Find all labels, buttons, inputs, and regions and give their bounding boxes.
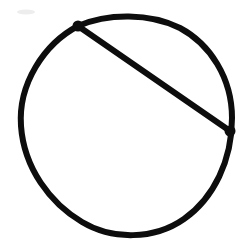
circle-with-chord-drawing: Circle with a chord bbox=[0, 0, 242, 252]
paper-smudge bbox=[17, 10, 35, 15]
figure-canvas: Circle with a chord bbox=[0, 0, 242, 252]
drawing-background bbox=[0, 0, 242, 252]
chord-endpoint-upper-left bbox=[73, 21, 84, 32]
chord-endpoint-right bbox=[225, 126, 236, 137]
